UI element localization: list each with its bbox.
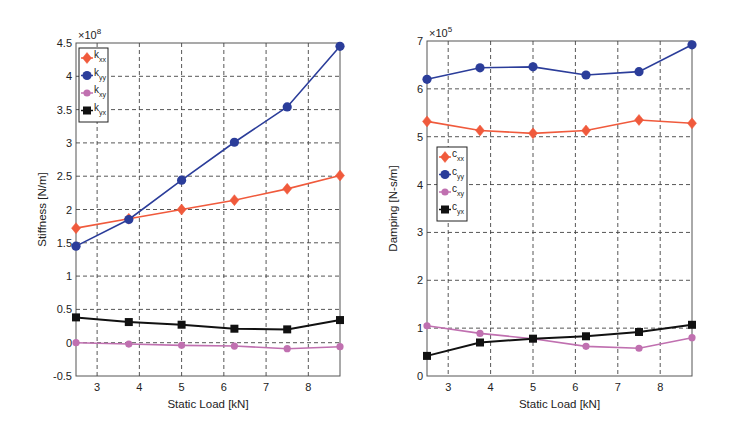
legend: kxxkyykxykyx xyxy=(79,48,108,122)
data-point-marker xyxy=(422,75,431,84)
y-tick-label: 3.5 xyxy=(57,104,72,116)
data-point-marker xyxy=(124,215,133,224)
data-point-marker xyxy=(177,176,186,185)
y-tick-label: 4 xyxy=(417,179,423,191)
data-point-marker xyxy=(528,62,537,71)
y-tick-label: 7 xyxy=(417,35,423,47)
x-tick-label: 4 xyxy=(136,381,142,393)
data-point-marker xyxy=(284,345,291,352)
y-tick-label: 2 xyxy=(66,204,72,216)
legend-marker xyxy=(441,206,449,214)
data-point-marker xyxy=(423,322,430,329)
data-point-marker xyxy=(125,340,132,347)
damping-chart: 34567801234567×105Static Load [kN]Dampin… xyxy=(387,25,697,410)
data-point-marker xyxy=(72,313,80,321)
y-tick-labels: -0.500.511.522.533.544.5 xyxy=(53,37,72,382)
y-tick-label: 3 xyxy=(66,137,72,149)
data-point-marker xyxy=(635,328,643,336)
y-tick-labels: 01234567 xyxy=(417,35,423,382)
x-tick-labels: 345678 xyxy=(94,381,311,393)
x-tick-label: 7 xyxy=(615,381,621,393)
y-tick-label: 2 xyxy=(417,274,423,286)
legend-marker xyxy=(441,188,448,195)
data-point-marker xyxy=(476,339,484,347)
y-tick-label: -0.5 xyxy=(53,370,72,382)
y-multiplier: ×108 xyxy=(78,27,102,41)
x-tick-label: 4 xyxy=(488,381,494,393)
data-point-marker xyxy=(231,342,238,349)
x-tick-label: 7 xyxy=(263,381,269,393)
y-tick-label: 4 xyxy=(66,70,72,82)
data-point-marker xyxy=(178,342,185,349)
y-multiplier: ×105 xyxy=(429,25,453,39)
data-point-marker xyxy=(283,325,291,333)
y-tick-label: 1 xyxy=(417,322,423,334)
y-tick-label: 1 xyxy=(66,270,72,282)
y-tick-label: 4.5 xyxy=(57,37,72,49)
data-point-marker xyxy=(335,42,344,51)
data-point-marker xyxy=(230,138,239,147)
data-point-marker xyxy=(475,63,484,72)
y-tick-label: 0.5 xyxy=(57,303,72,315)
y-tick-label: 6 xyxy=(417,83,423,95)
y-axis-label: Damping [N-s/m] xyxy=(387,165,399,251)
data-point-marker xyxy=(423,352,431,360)
y-tick-label: 0 xyxy=(66,337,72,349)
y-tick-label: 1.5 xyxy=(57,237,72,249)
data-point-marker xyxy=(688,321,696,329)
data-point-marker xyxy=(336,316,344,324)
data-point-marker xyxy=(688,334,695,341)
data-point-marker xyxy=(178,321,186,329)
data-point-marker xyxy=(72,339,79,346)
x-tick-label: 3 xyxy=(445,381,451,393)
data-point-marker xyxy=(529,335,537,343)
y-tick-label: 3 xyxy=(417,226,423,238)
data-point-marker xyxy=(582,343,589,350)
x-tick-label: 5 xyxy=(179,381,185,393)
x-tick-label: 5 xyxy=(530,381,536,393)
legend-marker xyxy=(83,89,90,96)
y-axis-label: Stiffness [N/m] xyxy=(36,172,48,247)
x-tick-label: 3 xyxy=(94,381,100,393)
legend-marker xyxy=(440,170,449,179)
x-tick-labels: 345678 xyxy=(445,381,663,393)
data-point-marker xyxy=(71,242,80,251)
data-point-marker xyxy=(476,330,483,337)
data-point-marker xyxy=(125,318,133,326)
data-point-marker xyxy=(634,67,643,76)
data-point-marker xyxy=(581,70,590,79)
x-tick-label: 6 xyxy=(221,381,227,393)
data-point-marker xyxy=(283,102,292,111)
y-tick-label: 2.5 xyxy=(57,170,72,182)
x-tick-label: 6 xyxy=(572,381,578,393)
data-point-marker xyxy=(687,40,696,49)
y-tick-label: 5 xyxy=(417,131,423,143)
data-point-marker xyxy=(230,325,238,333)
x-axis-label: Static Load [kN] xyxy=(167,398,248,410)
data-point-marker xyxy=(582,332,590,340)
legend: cxxcyycxycyx xyxy=(437,147,467,221)
legend-marker xyxy=(83,107,91,115)
stiffness-chart: 345678-0.500.511.522.533.544.5×108Static… xyxy=(36,27,345,410)
y-tick-label: 0 xyxy=(417,370,423,382)
x-tick-label: 8 xyxy=(305,381,311,393)
stiffness-damping-figure: 345678-0.500.511.522.533.544.5×108Static… xyxy=(0,0,729,427)
legend-marker xyxy=(82,71,91,80)
x-tick-label: 8 xyxy=(657,381,663,393)
data-point-marker xyxy=(336,343,343,350)
data-point-marker xyxy=(635,345,642,352)
x-axis-label: Static Load [kN] xyxy=(519,398,600,410)
